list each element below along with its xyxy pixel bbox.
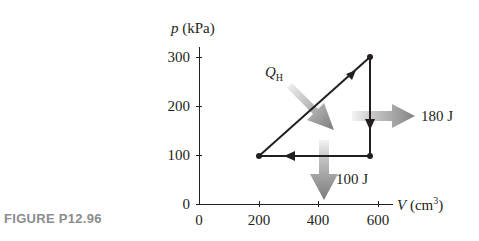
x-axis-title: V (cm3) xyxy=(397,196,443,213)
y-tick-0: 0 xyxy=(150,197,190,212)
qh-symbol: Q xyxy=(265,64,276,80)
x-axis-unit: (cm xyxy=(410,197,433,213)
y-axis-symbol: p xyxy=(171,20,179,36)
arrowhead-down-icon xyxy=(365,119,375,130)
heat-out-arrow-down xyxy=(310,140,338,200)
state-point-1 xyxy=(256,153,262,159)
heat-out-right-label: 180 J xyxy=(421,109,453,124)
state-point-2 xyxy=(367,54,373,60)
heat-out-arrow-right xyxy=(352,104,415,128)
qh-subscript: H xyxy=(276,72,283,83)
y-axis-unit: (kPa) xyxy=(182,20,215,36)
x-tick-400: 400 xyxy=(298,213,338,228)
x-tick-200: 200 xyxy=(239,213,279,228)
qh-label: QH xyxy=(265,65,283,83)
heat-out-down-label: 100 J xyxy=(336,172,368,187)
y-tick-100: 100 xyxy=(150,148,190,163)
heat-in-arrow-qh xyxy=(287,83,334,130)
arrowhead-left-icon xyxy=(284,151,295,161)
x-tick-600: 600 xyxy=(358,213,398,228)
y-tick-200: 200 xyxy=(150,99,190,114)
figure-caption: FIGURE P12.96 xyxy=(4,211,102,226)
state-point-3 xyxy=(367,153,373,159)
y-axis-title: p (kPa) xyxy=(171,21,215,36)
x-tick-0: 0 xyxy=(179,213,219,228)
x-axis-symbol: V xyxy=(397,197,406,213)
x-axis-unit-close: ) xyxy=(438,197,443,213)
arrowhead-up-right-icon xyxy=(346,70,356,80)
y-tick-300: 300 xyxy=(150,50,190,65)
